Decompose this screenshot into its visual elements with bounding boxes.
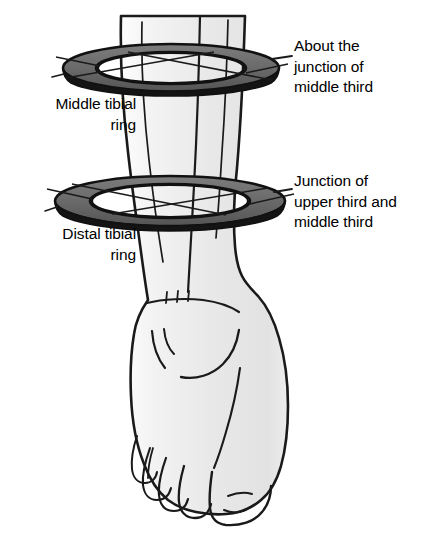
- callout-junction-upper-middle-third: Junction of upper third and middle third: [294, 171, 436, 233]
- callout-about-junction-middle-third: About the junction of middle third: [294, 36, 434, 98]
- leader-line-middle-tibial-ring: [52, 74, 64, 77]
- figure-root: About the junction of middle third Junct…: [0, 0, 438, 552]
- leader-line-about-junction-middle-third: [272, 56, 292, 59]
- callout-distal-tibial-ring: Distal tibial ring: [8, 224, 136, 265]
- leader-line-distal-tibial-ring: [45, 207, 57, 211]
- ankle-tendon-tick-2: [177, 291, 178, 302]
- ankle-tendon-tick-3: [188, 291, 189, 301]
- distal-tibial-ring[interactable]: [47, 176, 294, 231]
- ankle-tendon-tick-1: [166, 292, 167, 303]
- callout-middle-tibial-ring: Middle tibial ring: [8, 94, 136, 135]
